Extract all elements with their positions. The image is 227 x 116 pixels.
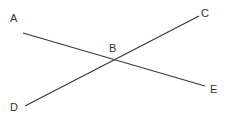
- diagram-canvas: A B C D E: [0, 0, 227, 116]
- label-b: B: [109, 42, 116, 54]
- label-e: E: [210, 83, 217, 95]
- line-dc: [25, 16, 199, 106]
- label-a: A: [10, 12, 18, 24]
- label-c: C: [201, 7, 209, 19]
- label-d: D: [10, 101, 18, 113]
